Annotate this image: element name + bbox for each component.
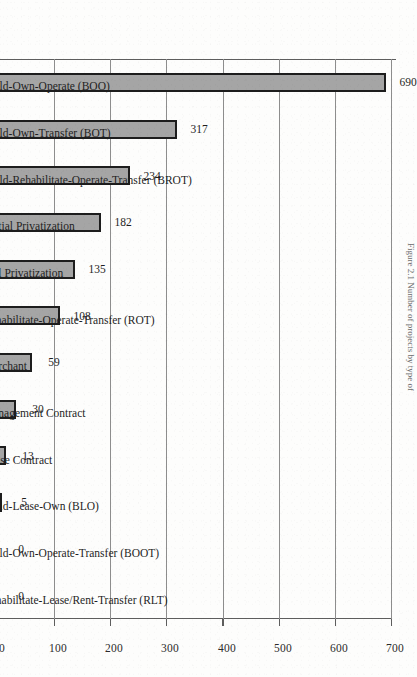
gridline	[54, 59, 55, 619]
y-axis-tick	[166, 619, 167, 626]
x-axis-category-label: Management Contract	[0, 407, 86, 419]
x-axis-category-label: Build-Own-Transfer (BOT)	[0, 127, 111, 139]
y-axis-line	[0, 59, 396, 60]
x-axis-category-label: Build-Own-Operate-Transfer (BOOT)	[0, 547, 159, 559]
y-axis-tick-label: 300	[153, 642, 187, 654]
y-axis-tick-label: 400	[210, 642, 244, 654]
gridline	[279, 59, 280, 619]
bar-value-label: 59	[37, 356, 71, 368]
y-axis-tick	[279, 619, 280, 626]
y-axis-tick-label: 200	[97, 642, 131, 654]
x-axis-category-label: Full Privatization	[0, 267, 63, 279]
x-axis-category-label: Build-Rehabilitate-Operate-Transfer (BRO…	[0, 174, 192, 186]
y-axis-tick	[222, 619, 223, 626]
y-axis-tick	[54, 619, 55, 626]
y-axis-tick	[391, 619, 392, 626]
y-axis-tick	[110, 619, 111, 626]
y-axis-tick-label: 700	[378, 642, 412, 654]
gridline	[166, 59, 167, 619]
y-axis-tick-label: 0	[0, 642, 19, 654]
figure-caption-clipped: Figure 2.1 Number of projects by type of	[405, 243, 416, 453]
x-axis-category-label: Rehabilitate-Operate-Transfer (ROT)	[0, 314, 155, 326]
gridline	[110, 59, 111, 619]
y-axis-right-line	[0, 618, 392, 619]
x-axis-category-label: Build-Lease-Own (BLO)	[0, 500, 99, 512]
gridline	[335, 59, 336, 619]
plot-area: 0100200300400500600700690Build-Own-Opera…	[0, 59, 392, 619]
bar-value-label: 135	[80, 263, 114, 275]
x-axis-category-label: Build-Own-Operate (BOO)	[0, 80, 110, 92]
y-axis-tick-label: 600	[322, 642, 356, 654]
gridline	[223, 59, 224, 619]
gridline	[391, 59, 392, 619]
y-axis-tick	[335, 619, 336, 626]
bar-value-label: 690	[391, 76, 417, 88]
rotated-chart-area: 0100200300400500600700690Build-Own-Opera…	[0, 0, 417, 677]
figure-canvas: 0100200300400500600700690Build-Own-Opera…	[0, 0, 417, 677]
y-axis-tick-label: 100	[41, 642, 75, 654]
x-axis-category-label: Rehabilitate-Lease/Rent-Transfer (RLT)	[0, 594, 168, 606]
x-axis-category-label: Partial Privatization	[0, 220, 75, 232]
y-axis-tick-label: 500	[266, 642, 300, 654]
x-axis-category-label: Lease Contract	[0, 454, 52, 466]
x-axis-category-label: Merchant	[0, 360, 27, 372]
bar-value-label: 317	[182, 123, 216, 135]
bar-value-label: 182	[106, 216, 140, 228]
